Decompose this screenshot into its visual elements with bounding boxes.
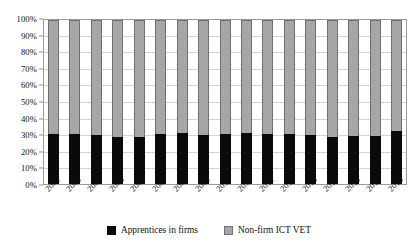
y-axis-tick-label: 10% [21,164,37,173]
bar-segment-non-firm-ict-vet [112,20,123,137]
y-axis-tick-mark [39,19,43,20]
y-axis-tick-mark [39,118,43,119]
chart-legend: Apprentices in firmsNon-firm ICT VET [0,226,418,235]
bar-segment-non-firm-ict-vet [284,20,295,134]
x-axis-tick: 2004 [91,186,102,222]
y-axis-tick-mark [39,135,43,136]
bar-column [198,20,209,184]
bar-column [241,20,252,184]
x-axis-tick: 2018 [391,186,402,222]
bar-series-container [44,20,406,184]
y-axis-tick-mark [39,85,43,86]
y-axis-tick-label: 100% [17,15,37,24]
x-axis-tick: 2016 [348,186,359,222]
y-axis-tick-label: 0% [25,181,37,190]
bar-segment-non-firm-ict-vet [391,20,402,131]
bar-column [155,20,166,184]
x-axis-tick: 2015 [327,186,338,222]
bar-column [220,20,231,184]
stacked-bar-chart: 0%10%20%30%40%50%60%70%80%90%100% 200220… [0,0,418,250]
bar-segment-non-firm-ict-vet [155,20,166,134]
x-axis-tick: 2011 [241,186,252,222]
bar-column [69,20,80,184]
y-axis-tick-label: 50% [21,98,37,107]
y-axis-tick-label: 80% [21,48,37,57]
legend-item[interactable]: Non-firm ICT VET [224,226,311,235]
bar-segment-non-firm-ict-vet [241,20,252,133]
bar-column [134,20,145,184]
y-axis-tick-label: 40% [21,114,37,123]
bar-column [391,20,402,184]
y-axis-tick-label: 60% [21,81,37,90]
bar-column [91,20,102,184]
y-axis-tick-mark [39,168,43,169]
y-axis-tick-mark [39,52,43,53]
legend-label: Non-firm ICT VET [238,226,311,235]
y-axis-tick-mark [39,35,43,36]
y-axis-tick-label: 70% [21,65,37,74]
y-axis-tick-label: 90% [21,31,37,40]
y-axis-tick-label: 30% [21,131,37,140]
bar-segment-non-firm-ict-vet [327,20,338,137]
x-axis: 2002200320042005200620072008200920102011… [44,186,406,222]
x-axis-tick: 2006 [134,186,145,222]
bar-segment-non-firm-ict-vet [91,20,102,135]
x-axis-tick: 2014 [305,186,316,222]
legend-item[interactable]: Apprentices in firms [107,226,198,235]
legend-label: Apprentices in firms [121,226,198,235]
bar-column [370,20,381,184]
x-axis-tick: 2013 [284,186,295,222]
bar-segment-non-firm-ict-vet [370,20,381,136]
y-axis-tick-mark [39,102,43,103]
x-axis-tick: 2010 [220,186,231,222]
y-axis-tick-label: 20% [21,148,37,157]
bar-column [112,20,123,184]
bar-segment-non-firm-ict-vet [198,20,209,135]
y-axis-tick-mark [39,185,43,186]
x-axis-tick: 2003 [69,186,80,222]
bar-column [284,20,295,184]
bar-column [348,20,359,184]
bar-column [48,20,59,184]
bar-segment-non-firm-ict-vet [262,20,273,134]
x-axis-tick: 2017 [370,186,381,222]
bar-segment-non-firm-ict-vet [134,20,145,137]
bar-column [305,20,316,184]
x-axis-tick: 2009 [198,186,209,222]
y-axis-tick-mark [39,151,43,152]
bar-segment-non-firm-ict-vet [177,20,188,133]
bar-segment-non-firm-ict-vet [220,20,231,134]
bar-column [262,20,273,184]
bar-segment-non-firm-ict-vet [305,20,316,135]
x-axis-tick: 2008 [177,186,188,222]
y-axis-tick-mark [39,68,43,69]
bar-column [177,20,188,184]
bar-segment-non-firm-ict-vet [69,20,80,134]
x-axis-tick: 2005 [112,186,123,222]
x-axis-tick: 2002 [48,186,59,222]
legend-swatch-black [107,226,116,235]
x-axis-tick: 2007 [155,186,166,222]
bar-segment-non-firm-ict-vet [48,20,59,134]
x-axis-tick: 2012 [262,186,273,222]
legend-swatch-gray [224,226,233,235]
y-axis: 0%10%20%30%40%50%60%70%80%90%100% [0,19,43,185]
bar-column [327,20,338,184]
bar-segment-non-firm-ict-vet [348,20,359,136]
